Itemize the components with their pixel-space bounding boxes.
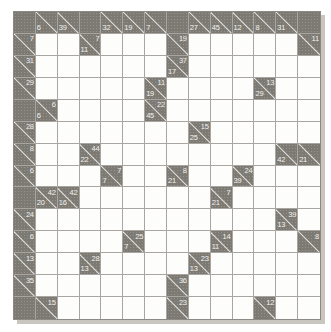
entry-cell[interactable] (80, 297, 102, 319)
entry-cell[interactable] (254, 253, 276, 275)
entry-cell[interactable] (189, 78, 211, 100)
entry-cell[interactable] (145, 144, 167, 166)
entry-cell[interactable] (276, 231, 298, 253)
entry-cell[interactable] (254, 166, 276, 188)
entry-cell[interactable] (145, 209, 167, 231)
entry-cell[interactable] (145, 253, 167, 275)
entry-cell[interactable] (145, 122, 167, 144)
entry-cell[interactable] (211, 78, 233, 100)
entry-cell[interactable] (58, 253, 80, 275)
entry-cell[interactable] (233, 144, 255, 166)
entry-cell[interactable] (167, 231, 189, 253)
entry-cell[interactable] (123, 78, 145, 100)
entry-cell[interactable] (58, 231, 80, 253)
entry-cell[interactable] (36, 209, 58, 231)
entry-cell[interactable] (298, 122, 320, 144)
entry-cell[interactable] (298, 253, 320, 275)
entry-cell[interactable] (254, 187, 276, 209)
entry-cell[interactable] (36, 275, 58, 297)
entry-cell[interactable] (298, 209, 320, 231)
entry-cell[interactable] (101, 100, 123, 122)
entry-cell[interactable] (58, 275, 80, 297)
entry-cell[interactable] (145, 231, 167, 253)
entry-cell[interactable] (101, 275, 123, 297)
entry-cell[interactable] (167, 144, 189, 166)
entry-cell[interactable] (211, 166, 233, 188)
entry-cell[interactable] (36, 231, 58, 253)
entry-cell[interactable] (233, 100, 255, 122)
entry-cell[interactable] (298, 166, 320, 188)
entry-cell[interactable] (80, 231, 102, 253)
entry-cell[interactable] (298, 56, 320, 78)
entry-cell[interactable] (233, 253, 255, 275)
entry-cell[interactable] (254, 100, 276, 122)
entry-cell[interactable] (276, 253, 298, 275)
entry-cell[interactable] (189, 231, 211, 253)
entry-cell[interactable] (80, 78, 102, 100)
entry-cell[interactable] (145, 297, 167, 319)
entry-cell[interactable] (254, 122, 276, 144)
entry-cell[interactable] (167, 209, 189, 231)
entry-cell[interactable] (167, 100, 189, 122)
entry-cell[interactable] (233, 78, 255, 100)
entry-cell[interactable] (58, 100, 80, 122)
entry-cell[interactable] (101, 187, 123, 209)
entry-cell[interactable] (123, 100, 145, 122)
entry-cell[interactable] (298, 187, 320, 209)
entry-cell[interactable] (276, 275, 298, 297)
entry-cell[interactable] (189, 34, 211, 56)
entry-cell[interactable] (80, 56, 102, 78)
entry-cell[interactable] (189, 275, 211, 297)
entry-cell[interactable] (36, 166, 58, 188)
entry-cell[interactable] (58, 209, 80, 231)
entry-cell[interactable] (36, 122, 58, 144)
entry-cell[interactable] (189, 166, 211, 188)
entry-cell[interactable] (123, 166, 145, 188)
entry-cell[interactable] (101, 34, 123, 56)
entry-cell[interactable] (211, 122, 233, 144)
entry-cell[interactable] (276, 78, 298, 100)
entry-cell[interactable] (123, 122, 145, 144)
entry-cell[interactable] (80, 275, 102, 297)
entry-cell[interactable] (58, 78, 80, 100)
entry-cell[interactable] (58, 56, 80, 78)
kakuro-grid[interactable]: 6393219727451283177111911313717291119132… (13, 11, 321, 320)
entry-cell[interactable] (123, 275, 145, 297)
entry-cell[interactable] (233, 122, 255, 144)
entry-cell[interactable] (80, 122, 102, 144)
entry-cell[interactable] (58, 122, 80, 144)
entry-cell[interactable] (101, 122, 123, 144)
entry-cell[interactable] (233, 231, 255, 253)
entry-cell[interactable] (58, 166, 80, 188)
entry-cell[interactable] (189, 297, 211, 319)
entry-cell[interactable] (254, 144, 276, 166)
entry-cell[interactable] (167, 253, 189, 275)
entry-cell[interactable] (123, 144, 145, 166)
entry-cell[interactable] (298, 100, 320, 122)
entry-cell[interactable] (58, 144, 80, 166)
entry-cell[interactable] (80, 209, 102, 231)
entry-cell[interactable] (211, 209, 233, 231)
entry-cell[interactable] (80, 100, 102, 122)
entry-cell[interactable] (36, 144, 58, 166)
entry-cell[interactable] (233, 56, 255, 78)
entry-cell[interactable] (276, 297, 298, 319)
entry-cell[interactable] (189, 144, 211, 166)
entry-cell[interactable] (211, 297, 233, 319)
entry-cell[interactable] (211, 100, 233, 122)
entry-cell[interactable] (189, 209, 211, 231)
entry-cell[interactable] (58, 297, 80, 319)
entry-cell[interactable] (123, 297, 145, 319)
entry-cell[interactable] (211, 56, 233, 78)
entry-cell[interactable] (80, 166, 102, 188)
entry-cell[interactable] (189, 100, 211, 122)
entry-cell[interactable] (233, 187, 255, 209)
entry-cell[interactable] (145, 56, 167, 78)
entry-cell[interactable] (211, 275, 233, 297)
entry-cell[interactable] (36, 253, 58, 275)
entry-cell[interactable] (145, 187, 167, 209)
entry-cell[interactable] (276, 100, 298, 122)
entry-cell[interactable] (298, 78, 320, 100)
entry-cell[interactable] (276, 187, 298, 209)
entry-cell[interactable] (101, 78, 123, 100)
